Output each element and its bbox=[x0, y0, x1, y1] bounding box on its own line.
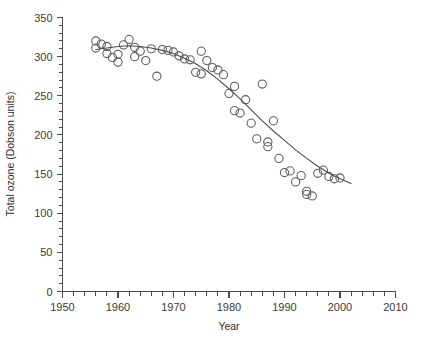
data-point bbox=[208, 64, 216, 72]
x-tick-label: 2000 bbox=[328, 301, 352, 313]
trend-line bbox=[96, 46, 351, 184]
trend-line-path bbox=[96, 46, 351, 184]
data-points bbox=[92, 35, 344, 200]
data-point bbox=[275, 154, 283, 162]
x-tick-label: 1990 bbox=[272, 301, 296, 313]
x-axis-title: Year bbox=[218, 320, 240, 332]
data-point bbox=[136, 47, 144, 55]
y-tick-label: 300 bbox=[34, 51, 52, 63]
y-tick-label: 250 bbox=[34, 90, 52, 102]
y-tick-label: 200 bbox=[34, 129, 52, 141]
data-point bbox=[247, 119, 255, 127]
data-point bbox=[297, 172, 305, 180]
data-point bbox=[192, 68, 200, 76]
y-tick-label: 350 bbox=[34, 12, 52, 24]
data-point bbox=[269, 117, 277, 125]
data-point bbox=[230, 82, 238, 90]
y-tick-label: 0 bbox=[46, 286, 52, 298]
data-point bbox=[114, 58, 122, 66]
data-point bbox=[242, 96, 250, 104]
data-point bbox=[264, 143, 272, 151]
data-point bbox=[153, 72, 161, 80]
data-point bbox=[230, 107, 238, 115]
data-point bbox=[125, 35, 133, 43]
x-tick-label: 2010 bbox=[383, 301, 407, 313]
data-point bbox=[286, 167, 294, 175]
data-point bbox=[197, 70, 205, 78]
data-point bbox=[258, 80, 266, 88]
data-point bbox=[236, 109, 244, 117]
data-point bbox=[203, 56, 211, 64]
data-point bbox=[131, 43, 139, 51]
ozone-scatter-chart: 050100150200250300350 195019601970198019… bbox=[0, 0, 424, 338]
data-point bbox=[214, 66, 222, 74]
plot-area: 050100150200250300350 195019601970198019… bbox=[0, 0, 424, 338]
y-tick-label: 100 bbox=[34, 207, 52, 219]
x-tick-label: 1980 bbox=[217, 301, 241, 313]
data-point bbox=[336, 174, 344, 182]
y-axis: 050100150200250300350 bbox=[34, 12, 62, 298]
y-tick-label: 150 bbox=[34, 168, 52, 180]
data-point bbox=[308, 192, 316, 200]
data-point bbox=[264, 138, 272, 146]
data-point bbox=[280, 168, 288, 176]
y-axis-title: Total ozone (Dobson units) bbox=[4, 92, 16, 217]
x-tick-label: 1950 bbox=[50, 301, 74, 313]
data-point bbox=[142, 56, 150, 64]
data-point bbox=[253, 135, 261, 143]
data-point bbox=[219, 71, 227, 79]
x-tick-label: 1970 bbox=[161, 301, 185, 313]
x-axis: 1950196019701980199020002010 bbox=[50, 292, 407, 313]
y-tick-label: 50 bbox=[40, 246, 52, 258]
data-point bbox=[225, 89, 233, 97]
data-point bbox=[197, 47, 205, 55]
x-tick-label: 1960 bbox=[106, 301, 130, 313]
